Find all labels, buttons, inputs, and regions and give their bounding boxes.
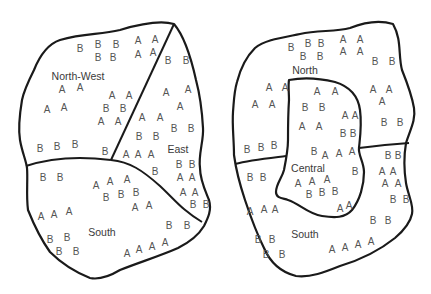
left-map-mark-b: B [72, 140, 79, 150]
right-map-mark-a: A [329, 245, 336, 255]
right-map-mark-b: B [279, 250, 286, 260]
right-map-mark-b: B [247, 173, 254, 183]
right-map-mark-a: A [299, 122, 306, 132]
right-map-mark-a: A [322, 151, 329, 161]
right-map-mark-a: A [357, 35, 364, 45]
region-label-north: North [292, 65, 318, 76]
right-map-mark-a: A [316, 122, 323, 132]
left-map-mark-b: B [153, 132, 160, 142]
right-map-mark-a: A [269, 100, 276, 110]
left-map-mark-b: B [110, 53, 117, 63]
left-map-mark-a: A [98, 117, 105, 127]
right-map-mark-a: A [314, 87, 321, 97]
right-map-mark-b: B [372, 57, 379, 67]
right-map-mark-a: A [352, 111, 359, 121]
right-map-mark-b: B [306, 190, 313, 200]
right-map-mark-a: A [390, 167, 397, 177]
right-map-mark-a: A [379, 167, 386, 177]
left-map-mark-a: A [150, 48, 157, 58]
left-map-mark-b: B [165, 56, 172, 66]
right-map-mark-b: B [389, 57, 396, 67]
right-map-mark-b: B [244, 145, 251, 155]
right-map-mark-a: A [324, 175, 331, 185]
left-map-mark-b: B [37, 144, 44, 154]
left-map-mark-a: A [38, 212, 45, 222]
right-map-mark-a: A [336, 149, 343, 159]
left-map-mark-a: A [157, 113, 164, 123]
left-map-mark-a: A [192, 188, 199, 198]
right-map-mark-b: B [271, 141, 278, 151]
region-label-central: Central [291, 163, 325, 174]
right-map-mark-a: A [309, 177, 316, 187]
right-map-mark-a: A [395, 179, 402, 189]
right-map-mark-b: B [258, 143, 265, 153]
left-map-mark-a: A [180, 188, 187, 198]
left-map-mark-b: B [103, 193, 110, 203]
right-map-mark-b: B [370, 216, 377, 226]
region-label-south-left: South [88, 227, 115, 238]
left-map-mark-a: A [123, 150, 130, 160]
right-map-mark-b: B [288, 43, 295, 53]
right-divider-east [359, 143, 409, 148]
left-map-mark-a: A [135, 36, 142, 46]
left-map-mark-a: A [146, 201, 153, 211]
left-map-mark-b: B [133, 188, 140, 198]
left-map-mark-b: B [47, 235, 54, 245]
left-map-mark-b: B [118, 190, 125, 200]
left-map-mark-b: B [166, 221, 173, 231]
left-map-mark-b: B [102, 147, 109, 157]
left-map-mark-a: A [136, 245, 143, 255]
right-map-mark-a: A [355, 240, 362, 250]
left-map-mark-a: A [189, 173, 196, 183]
right-map-mark-b: B [340, 129, 347, 139]
left-map-mark-a: A [132, 203, 139, 213]
left-map-mark-b: B [73, 247, 80, 257]
right-map-mark-a: A [368, 237, 375, 247]
left-map-mark-a: A [152, 35, 159, 45]
left-map-mark-a: A [115, 117, 122, 127]
right-map-mark-a: A [295, 179, 302, 189]
left-map-mark-a: A [162, 238, 169, 248]
right-map-mark-b: B [352, 167, 359, 177]
right-map-mark-b: B [395, 151, 402, 161]
left-map-mark-b: B [183, 56, 190, 66]
left-divider-nw-south [26, 158, 111, 166]
left-map-mark-b: B [136, 132, 143, 142]
left-map-mark-b: B [190, 200, 197, 210]
right-map-mark-b: B [397, 118, 404, 128]
left-map-mark-b: B [176, 160, 183, 170]
right-map-mark-b: B [381, 118, 388, 128]
right-map-mark-b: B [255, 235, 262, 245]
left-map-mark-b: B [95, 53, 102, 63]
right-map-mark-a: A [332, 87, 339, 97]
left-map-mark-b: B [77, 44, 84, 54]
left-map-mark-a: A [93, 181, 100, 191]
left-map-mark-b: B [184, 221, 191, 231]
right-map-mark-a: A [342, 243, 349, 253]
left-map-mark-a: A [124, 249, 131, 259]
right-map-mark-b: B [318, 39, 325, 49]
right-map-mark-a: A [386, 85, 393, 95]
left-map-mark-a: A [77, 83, 84, 93]
left-map-mark-b: B [189, 160, 196, 170]
left-map-mark-b: B [56, 247, 63, 257]
right-map-mark-a: A [370, 85, 377, 95]
right-map-mark-a: A [342, 111, 349, 121]
left-map-mark-a: A [107, 177, 114, 187]
region-label-south-right: South [291, 229, 318, 240]
left-map-mark-a: A [163, 88, 170, 98]
right-map-mark-b: B [319, 103, 326, 113]
left-map-mark-b: B [40, 173, 47, 183]
left-map-mark-a: A [44, 105, 51, 115]
right-map-mark-b: B [403, 195, 410, 205]
right-map-mark-a: A [261, 205, 268, 215]
right-map-mark-b: B [319, 188, 326, 198]
right-map-mark-b: B [311, 147, 318, 157]
right-map-mark-a: A [282, 83, 289, 93]
right-map-mark-a: A [266, 83, 273, 93]
figure-canvas: North-West East South North Central Sout… [0, 0, 431, 294]
left-map-mark-b: B [54, 142, 61, 152]
right-map-mark-b: B [305, 39, 312, 49]
right-map-mark-b: B [332, 187, 339, 197]
left-map-panel: North-West East South North Central Sout… [0, 0, 431, 294]
